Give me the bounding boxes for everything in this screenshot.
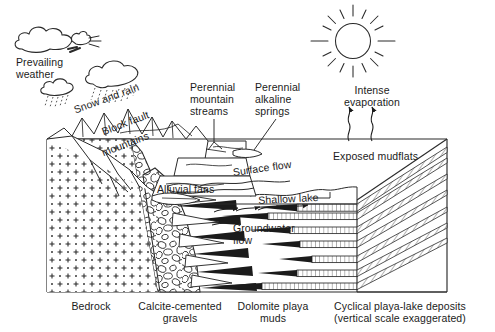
legend-bedrock: Bedrock [52,300,130,312]
side-face-beds [357,147,447,290]
playa-lake-block-diagram: Prevailing weather Snow and rain Block f… [0,0,495,332]
perennial-mountain-streams-label: Perennial mountain streams [190,81,235,118]
legend-dolomite-playa-muds: Dolomite playa muds [228,300,318,324]
evaporation-arrow-icon [348,107,373,141]
spring-discharge-lens [233,149,262,157]
cloud-icon [15,27,71,52]
alluvial-fans-label: Alluvial fans [157,183,214,195]
exposed-mudflats-label: Exposed mudflats [333,150,418,162]
perennial-alkaline-springs-leader [254,119,276,150]
intense-evaporation-label: Intense evaporation [330,84,414,108]
legend-cyclical-playa-lake-deposits: Cyclical playa-lake deposits (vertical s… [312,300,488,324]
perennial-alkaline-springs-label: Perennial alkaline springs [255,81,300,118]
legend-calcite-cemented-gravels: Calcite-cemented gravels [128,300,232,324]
prevailing-weather-label: Prevailing weather [16,56,63,80]
groundwater-flow-label: Groundwater flow [233,222,295,246]
sun-icon [311,5,395,77]
wind-blowing-icon [68,31,101,52]
rain-cloud-icon [41,79,73,107]
